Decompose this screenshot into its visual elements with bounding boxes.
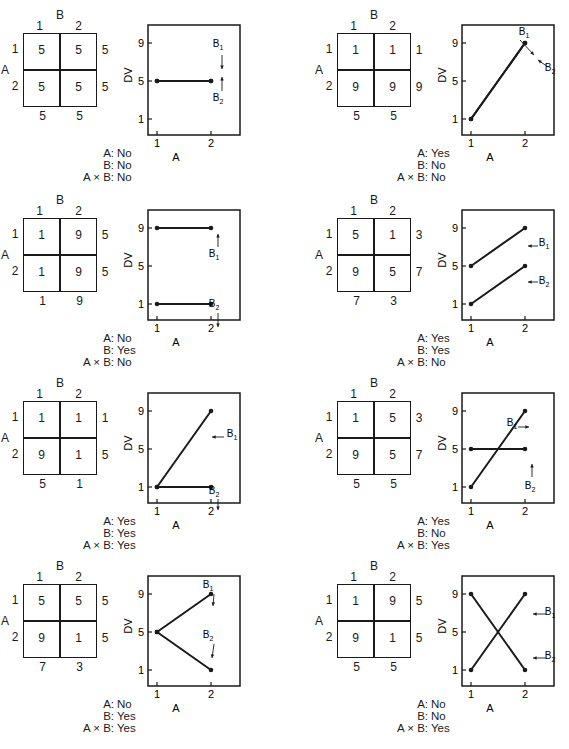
interaction-panel-2: BA121211991955159DV12AB1B2A: YesB: NoA ×… xyxy=(286,5,569,188)
x-tick-label: 2 xyxy=(522,688,528,700)
effect-significance: Yes xyxy=(117,539,141,551)
arrow-icon xyxy=(528,244,532,247)
series-annotation-b2: B2 xyxy=(203,629,215,658)
x-axis-label: A xyxy=(172,336,180,348)
series-annotation-b1: B1 xyxy=(209,234,220,261)
series-annotation-b1: B1 xyxy=(533,606,555,619)
row-marginal-mean: 5 xyxy=(100,595,110,607)
effect-label: B: xyxy=(103,710,114,722)
x-tick-label: 2 xyxy=(522,137,528,149)
series-annotation-b1: B1 xyxy=(528,237,549,250)
y-tick-label: 1 xyxy=(452,298,458,310)
factor-a-label: A xyxy=(314,615,324,627)
col-level-label: 2 xyxy=(74,20,84,32)
arrow-icon xyxy=(530,464,533,468)
series-annotation-b2: B2 xyxy=(528,275,549,288)
series-line-b1 xyxy=(157,594,211,632)
series-annotation-b1: B1 xyxy=(212,428,237,441)
cell-mean: 5 xyxy=(388,412,398,424)
means-table xyxy=(23,218,97,292)
arrow-icon xyxy=(525,425,529,428)
series-annotation-b2: B2 xyxy=(525,464,536,493)
effect-significance: Yes xyxy=(431,332,455,344)
series-line-b1 xyxy=(157,411,211,487)
row-level-label: 2 xyxy=(324,80,334,92)
effect-label: B: xyxy=(103,159,114,171)
x-tick-label: 2 xyxy=(208,137,214,149)
col-marginal-mean: 5 xyxy=(389,110,399,122)
row-level-label: 1 xyxy=(10,411,20,423)
row-marginal-mean: 3 xyxy=(414,229,424,241)
y-tick-label: 1 xyxy=(452,664,458,676)
effect-label: B: xyxy=(103,527,114,539)
factor-a-label: A xyxy=(0,64,10,76)
effect-label: B: xyxy=(417,710,428,722)
factor-b-label: B xyxy=(55,9,65,21)
cell-mean: 5 xyxy=(74,44,84,56)
svg-text:B1: B1 xyxy=(539,237,550,250)
significance-row-a: A: Yes xyxy=(359,515,455,527)
y-tick-label: 1 xyxy=(138,113,144,125)
col-marginal-mean: 3 xyxy=(75,661,85,673)
interaction-panel-3: BA121219195519159DV12AB1B2A: NoB: YesA ×… xyxy=(0,190,284,373)
x-tick-label: 2 xyxy=(208,322,214,334)
data-point xyxy=(155,485,160,490)
row-marginal-mean: 7 xyxy=(414,266,424,278)
y-tick-label: 1 xyxy=(138,664,144,676)
x-axis-label: A xyxy=(486,519,494,531)
col-level-label: 1 xyxy=(349,20,359,32)
col-level-label: 2 xyxy=(74,205,84,217)
table-divider xyxy=(338,69,410,71)
row-level-label: 2 xyxy=(10,80,20,92)
series-annotation-b2: B2 xyxy=(538,60,555,75)
effect-label: A × B: xyxy=(83,171,114,183)
cell-mean: 9 xyxy=(388,595,398,607)
interaction-panel-7: BA121255915573159DV12AB1B2A: NoB: YesA ×… xyxy=(0,556,284,739)
significance-row-a: A: No xyxy=(45,147,141,159)
significance-row-a: A: Yes xyxy=(359,147,455,159)
x-tick-label: 1 xyxy=(468,688,474,700)
effect-significance: No xyxy=(431,527,455,539)
significance-row-b: B: No xyxy=(359,710,455,722)
x-tick-label: 1 xyxy=(154,688,160,700)
significance-row-b: B: Yes xyxy=(45,344,141,356)
cell-mean: 1 xyxy=(37,412,47,424)
x-tick-label: 1 xyxy=(468,505,474,517)
series-annotation-b1: B1 xyxy=(519,26,534,55)
row-level-label: 1 xyxy=(324,411,334,423)
svg-text:B2: B2 xyxy=(209,485,220,498)
arrow-icon xyxy=(216,506,219,510)
interaction-panel-1: BA121255555555159DV12AB1B2A: NoB: NoA × … xyxy=(0,5,284,188)
y-tick-label: 5 xyxy=(452,443,458,455)
cell-mean: 1 xyxy=(37,266,47,278)
effect-significance: Yes xyxy=(117,515,141,527)
y-tick-label: 5 xyxy=(452,75,458,87)
cell-mean: 5 xyxy=(74,81,84,93)
effect-label: A × B: xyxy=(397,171,428,183)
y-tick-label: 5 xyxy=(138,75,144,87)
data-point xyxy=(523,41,528,46)
data-point xyxy=(523,226,528,231)
col-level-label: 2 xyxy=(388,388,398,400)
y-tick-label: 9 xyxy=(138,405,144,417)
y-axis-label: DV xyxy=(122,67,134,83)
significance-row-a: A: No xyxy=(359,698,455,710)
factor-b-label: B xyxy=(369,377,379,389)
data-point xyxy=(209,668,214,673)
cell-mean: 5 xyxy=(37,44,47,56)
cell-mean: 5 xyxy=(74,595,84,607)
table-divider xyxy=(24,620,96,622)
arrow-icon xyxy=(538,60,542,63)
effect-significance: No xyxy=(431,698,455,710)
significance-row-axb: A × B: No xyxy=(45,171,141,183)
row-marginal-mean: 5 xyxy=(100,229,110,241)
significance-row-b: B: No xyxy=(359,159,455,171)
significance-row-axb: A × B: Yes xyxy=(359,539,455,551)
row-level-label: 1 xyxy=(324,43,334,55)
row-marginal-mean: 3 xyxy=(414,412,424,424)
row-marginal-mean: 5 xyxy=(414,632,424,644)
table-divider xyxy=(338,620,410,622)
col-marginal-mean: 3 xyxy=(389,295,399,307)
data-point xyxy=(469,117,474,122)
cell-mean: 9 xyxy=(351,266,361,278)
